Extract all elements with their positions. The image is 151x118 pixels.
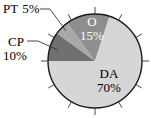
tick-mark	[136, 34, 142, 38]
tick-mark	[68, 102, 72, 108]
label-o: O	[87, 14, 96, 29]
label-da-pct: 70%	[97, 80, 121, 95]
tick-mark	[48, 85, 54, 89]
tick-mark	[68, 14, 72, 20]
tick-mark	[119, 102, 123, 108]
label-o-pct: 15%	[80, 28, 104, 43]
tick-mark	[119, 14, 123, 20]
label-cp-pct: 10%	[3, 48, 27, 63]
label-pt: PT5%	[3, 1, 40, 16]
pie-chart: PT5% CP 10% O 15% DA 70%	[0, 0, 151, 118]
label-cp: CP	[8, 34, 24, 49]
label-da: DA	[100, 66, 119, 81]
tick-mark	[136, 85, 142, 89]
tick-mark	[48, 34, 54, 38]
